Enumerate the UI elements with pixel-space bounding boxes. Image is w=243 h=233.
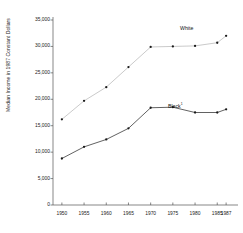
data-point-black	[150, 107, 152, 109]
data-point-black	[83, 146, 85, 148]
data-point-white	[105, 86, 107, 88]
footnote-marker: 1	[181, 102, 183, 106]
series-line-black	[62, 107, 226, 158]
data-point-black	[225, 108, 227, 110]
plot-canvas	[0, 0, 243, 233]
data-point-white	[61, 118, 63, 120]
data-point-white	[225, 35, 227, 37]
series-line-white	[62, 36, 226, 120]
data-point-white	[83, 100, 85, 102]
data-point-white	[172, 45, 174, 47]
data-point-black	[61, 157, 63, 159]
data-point-black	[194, 111, 196, 113]
data-point-black	[216, 111, 218, 113]
income-line-chart: Median Income in 1987 Constant Dollars 0…	[0, 0, 243, 233]
data-point-white	[150, 46, 152, 48]
data-point-white	[194, 45, 196, 47]
data-point-white	[127, 66, 129, 68]
data-point-black	[127, 127, 129, 129]
series-label-black: Black1	[168, 102, 183, 109]
data-point-black	[105, 138, 107, 140]
series-label-white: White	[180, 25, 193, 31]
data-point-white	[216, 42, 218, 44]
